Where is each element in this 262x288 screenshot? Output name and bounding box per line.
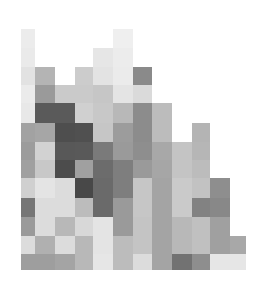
mosaic-tile bbox=[75, 160, 93, 178]
mosaic-tile bbox=[21, 29, 35, 48]
mosaic-tile bbox=[55, 123, 75, 142]
mosaic-tile bbox=[21, 198, 35, 217]
mosaic-tile bbox=[210, 236, 230, 254]
mosaic-tile bbox=[172, 198, 192, 217]
mosaic-tile bbox=[75, 103, 93, 123]
mosaic-tile bbox=[55, 254, 75, 270]
mosaic-tile bbox=[133, 217, 152, 236]
mosaic-tile bbox=[152, 198, 172, 217]
mosaic-tile bbox=[21, 103, 35, 123]
mosaic-tile bbox=[21, 48, 35, 67]
mosaic-tile bbox=[152, 160, 172, 178]
mosaic-tile bbox=[93, 48, 113, 67]
mosaic-tile bbox=[152, 178, 172, 198]
mosaic-tile bbox=[55, 217, 75, 236]
mosaic-tile bbox=[93, 85, 113, 103]
mosaic-tile bbox=[172, 178, 192, 198]
mosaic-tile bbox=[35, 142, 55, 160]
mosaic-tile bbox=[113, 67, 133, 85]
mosaic-tile bbox=[113, 29, 133, 48]
mosaic-tile bbox=[152, 123, 172, 142]
mosaic-tile bbox=[75, 142, 93, 160]
mosaic-tile bbox=[93, 160, 113, 178]
mosaic-tile bbox=[93, 142, 113, 160]
mosaic-tile bbox=[93, 178, 113, 198]
mosaic-tile bbox=[113, 178, 133, 198]
mosaic-tile bbox=[172, 142, 192, 160]
mosaic-tile bbox=[133, 198, 152, 217]
mosaic-tile bbox=[21, 236, 35, 254]
mosaic-tile bbox=[210, 178, 230, 198]
mosaic-tile bbox=[21, 123, 35, 142]
mosaic-tile bbox=[230, 254, 246, 270]
mosaic-tile bbox=[113, 217, 133, 236]
mosaic-tile bbox=[113, 48, 133, 67]
mosaic-tile bbox=[192, 178, 210, 198]
mosaic-tile bbox=[133, 254, 152, 270]
mosaic-tile bbox=[192, 160, 210, 178]
mosaic-tile bbox=[210, 217, 230, 236]
mosaic-tile bbox=[35, 123, 55, 142]
mosaic-tile bbox=[113, 85, 133, 103]
mosaic-tile bbox=[192, 254, 210, 270]
mosaic-tile bbox=[133, 142, 152, 160]
mosaic-tile bbox=[35, 198, 55, 217]
mosaic-tile bbox=[75, 85, 93, 103]
mosaic-tile bbox=[35, 67, 55, 85]
mosaic-tile bbox=[93, 103, 113, 123]
mosaic-tile bbox=[113, 236, 133, 254]
mosaic-tile bbox=[133, 103, 152, 123]
mosaic-tile bbox=[113, 198, 133, 217]
mosaic-tile bbox=[93, 123, 113, 142]
mosaic-tile bbox=[172, 160, 192, 178]
mosaic-tile bbox=[55, 236, 75, 254]
mosaic-tile bbox=[192, 198, 210, 217]
mosaic-tile bbox=[133, 123, 152, 142]
mosaic-tile bbox=[133, 67, 152, 85]
mosaic-tile bbox=[21, 254, 35, 270]
mosaic-tile bbox=[133, 178, 152, 198]
mosaic-tile bbox=[75, 236, 93, 254]
mosaic-tile bbox=[35, 217, 55, 236]
mosaic-tile bbox=[113, 160, 133, 178]
mosaic-tile bbox=[172, 217, 192, 236]
mosaic-tile bbox=[93, 217, 113, 236]
mosaic-tile bbox=[55, 178, 75, 198]
mosaic-tile bbox=[152, 103, 172, 123]
mosaic-tile bbox=[21, 217, 35, 236]
mosaic-tile bbox=[152, 254, 172, 270]
mosaic-tile bbox=[172, 254, 192, 270]
mosaic-tile bbox=[21, 160, 35, 178]
mosaic-tile bbox=[152, 236, 172, 254]
mosaic-tile bbox=[210, 198, 230, 217]
mosaic-tile bbox=[192, 142, 210, 160]
mosaic-tile bbox=[113, 103, 133, 123]
mosaic-tile bbox=[172, 236, 192, 254]
mosaic-tile bbox=[133, 160, 152, 178]
mosaic-tile bbox=[55, 85, 75, 103]
mosaic-tile bbox=[55, 103, 75, 123]
mosaic-tile bbox=[21, 85, 35, 103]
mosaic-tile bbox=[55, 198, 75, 217]
mosaic-tile bbox=[192, 236, 210, 254]
mosaic-tile bbox=[75, 67, 93, 85]
mosaic-tile bbox=[55, 142, 75, 160]
mosaic-tile bbox=[75, 217, 93, 236]
mosaic-tile bbox=[55, 160, 75, 178]
mosaic-tile bbox=[35, 178, 55, 198]
mosaic-tile bbox=[210, 254, 230, 270]
mosaic-tile bbox=[21, 67, 35, 85]
mosaic-tile bbox=[75, 123, 93, 142]
mosaic-tile bbox=[93, 198, 113, 217]
mosaic-tile bbox=[35, 160, 55, 178]
mosaic-tile bbox=[35, 254, 55, 270]
mosaic-tile bbox=[93, 236, 113, 254]
mosaic-tile bbox=[152, 217, 172, 236]
mosaic-tile bbox=[75, 198, 93, 217]
mosaic-tile bbox=[113, 123, 133, 142]
mosaic-tile bbox=[192, 217, 210, 236]
mosaic-tile bbox=[93, 67, 113, 85]
mosaic-tile bbox=[133, 85, 152, 103]
mosaic-tile bbox=[35, 85, 55, 103]
mosaic-tile bbox=[230, 236, 246, 254]
